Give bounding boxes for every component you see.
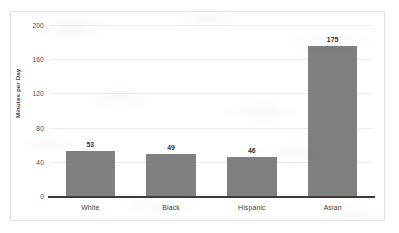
y-tick-label-200: 200	[32, 22, 44, 29]
x-axis-line	[48, 196, 375, 198]
bar-group: 53	[66, 25, 116, 196]
y-tick-label-0: 0	[40, 193, 44, 200]
plot-area: 534946175	[50, 25, 373, 196]
bar-group: 49	[146, 25, 196, 196]
x-tick-label-black: Black	[131, 204, 212, 211]
bar-group: 175	[308, 25, 358, 196]
y-tick-label-120: 120	[32, 90, 44, 97]
bar-white[interactable]	[66, 151, 116, 196]
bar-hispanic[interactable]	[227, 157, 277, 196]
bar-value-label-asian: 175	[308, 36, 358, 43]
bar-value-label-black: 49	[146, 144, 196, 151]
bar-group: 46	[227, 25, 277, 196]
y-tick-label-40: 40	[36, 158, 44, 165]
bar-value-label-white: 53	[66, 141, 116, 148]
x-axis-tick-labels: WhiteBlackHispanicAsian	[50, 200, 373, 222]
x-tick-label-white: White	[50, 204, 131, 211]
x-tick-label-hispanic: Hispanic	[212, 204, 293, 211]
y-tick-label-160: 160	[32, 56, 44, 63]
y-tick-label-80: 80	[36, 124, 44, 131]
bar-chart-figure: Minutes per Day 04080120160200 534946175…	[0, 0, 399, 233]
bar-value-label-hispanic: 46	[227, 147, 277, 154]
x-tick-label-asian: Asian	[292, 204, 373, 211]
bar-asian[interactable]	[308, 46, 358, 196]
y-axis-tick-labels: 04080120160200	[0, 25, 44, 196]
bar-black[interactable]	[146, 154, 196, 196]
